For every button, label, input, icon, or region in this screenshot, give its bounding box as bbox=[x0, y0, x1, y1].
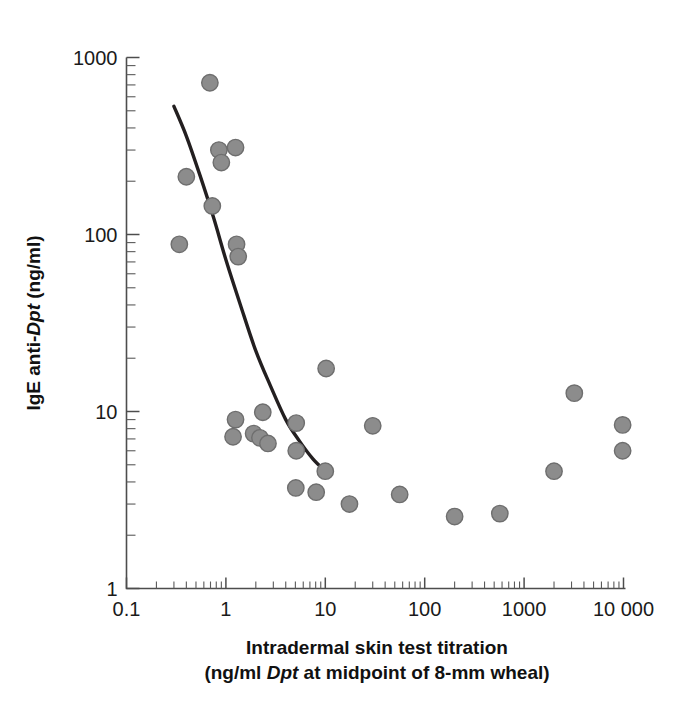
data-point bbox=[204, 198, 220, 214]
data-point bbox=[225, 429, 241, 445]
data-point bbox=[227, 411, 243, 427]
x-axis-title-line1: Intradermal skin test titration bbox=[246, 637, 508, 658]
x-tick-label: 10 bbox=[314, 598, 336, 620]
data-point bbox=[308, 484, 324, 500]
tick-labels-group: 0.1110100100010 0001101001000 bbox=[73, 47, 654, 620]
data-point bbox=[317, 463, 333, 479]
data-point bbox=[230, 248, 246, 264]
scatter-plot: 0.1110100100010 0001101001000 Intraderma… bbox=[0, 0, 685, 707]
data-point bbox=[171, 236, 187, 252]
y-axis-title-suffix: (ng/ml) bbox=[23, 235, 44, 304]
data-point bbox=[391, 486, 407, 502]
data-point bbox=[566, 385, 582, 401]
data-point bbox=[318, 360, 334, 376]
fit-curve bbox=[174, 106, 325, 471]
data-point bbox=[202, 75, 218, 91]
data-point bbox=[178, 169, 194, 185]
x-tick-label: 10 000 bbox=[593, 598, 654, 620]
data-point bbox=[446, 508, 462, 524]
data-point bbox=[288, 415, 304, 431]
axis-group bbox=[127, 58, 626, 589]
data-point bbox=[288, 443, 304, 459]
y-axis-title-prefix: IgE anti- bbox=[23, 336, 44, 411]
figure-panel: 0.1110100100010 0001101001000 Intraderma… bbox=[0, 0, 685, 707]
x-axis-title-suffix: at midpoint of 8-mm wheal) bbox=[298, 662, 549, 683]
y-tick-label: 100 bbox=[84, 224, 117, 246]
data-point bbox=[365, 418, 381, 434]
x-tick-label: 1 bbox=[220, 598, 231, 620]
x-tick-label: 100 bbox=[408, 598, 441, 620]
data-point bbox=[255, 404, 271, 420]
y-tick-label: 10 bbox=[95, 401, 117, 423]
data-point bbox=[227, 139, 243, 155]
data-point bbox=[614, 417, 630, 433]
y-tick-label: 1 bbox=[106, 578, 117, 600]
y-tick-label: 1000 bbox=[73, 47, 118, 69]
fit-curve-group bbox=[174, 106, 325, 471]
tick-marks-group bbox=[127, 58, 624, 589]
data-point bbox=[213, 154, 229, 170]
x-axis-title-line2: (ng/ml Dpt at midpoint of 8-mm wheal) bbox=[204, 662, 549, 683]
x-axis-title-prefix: (ng/ml bbox=[204, 662, 266, 683]
x-axis-title-italic-dpt: Dpt bbox=[267, 662, 299, 683]
data-point bbox=[546, 463, 562, 479]
data-point bbox=[341, 496, 357, 512]
data-point bbox=[492, 505, 508, 521]
x-tick-label: 1000 bbox=[502, 598, 547, 620]
data-point bbox=[288, 480, 304, 496]
x-tick-label: 0.1 bbox=[113, 598, 141, 620]
y-axis-title-italic-dpt: Dpt bbox=[23, 303, 44, 335]
y-axis-title: IgE anti-Dpt (ng/ml) bbox=[23, 235, 44, 410]
data-point bbox=[614, 443, 630, 459]
axis-spines bbox=[127, 58, 626, 589]
data-point bbox=[260, 435, 276, 451]
